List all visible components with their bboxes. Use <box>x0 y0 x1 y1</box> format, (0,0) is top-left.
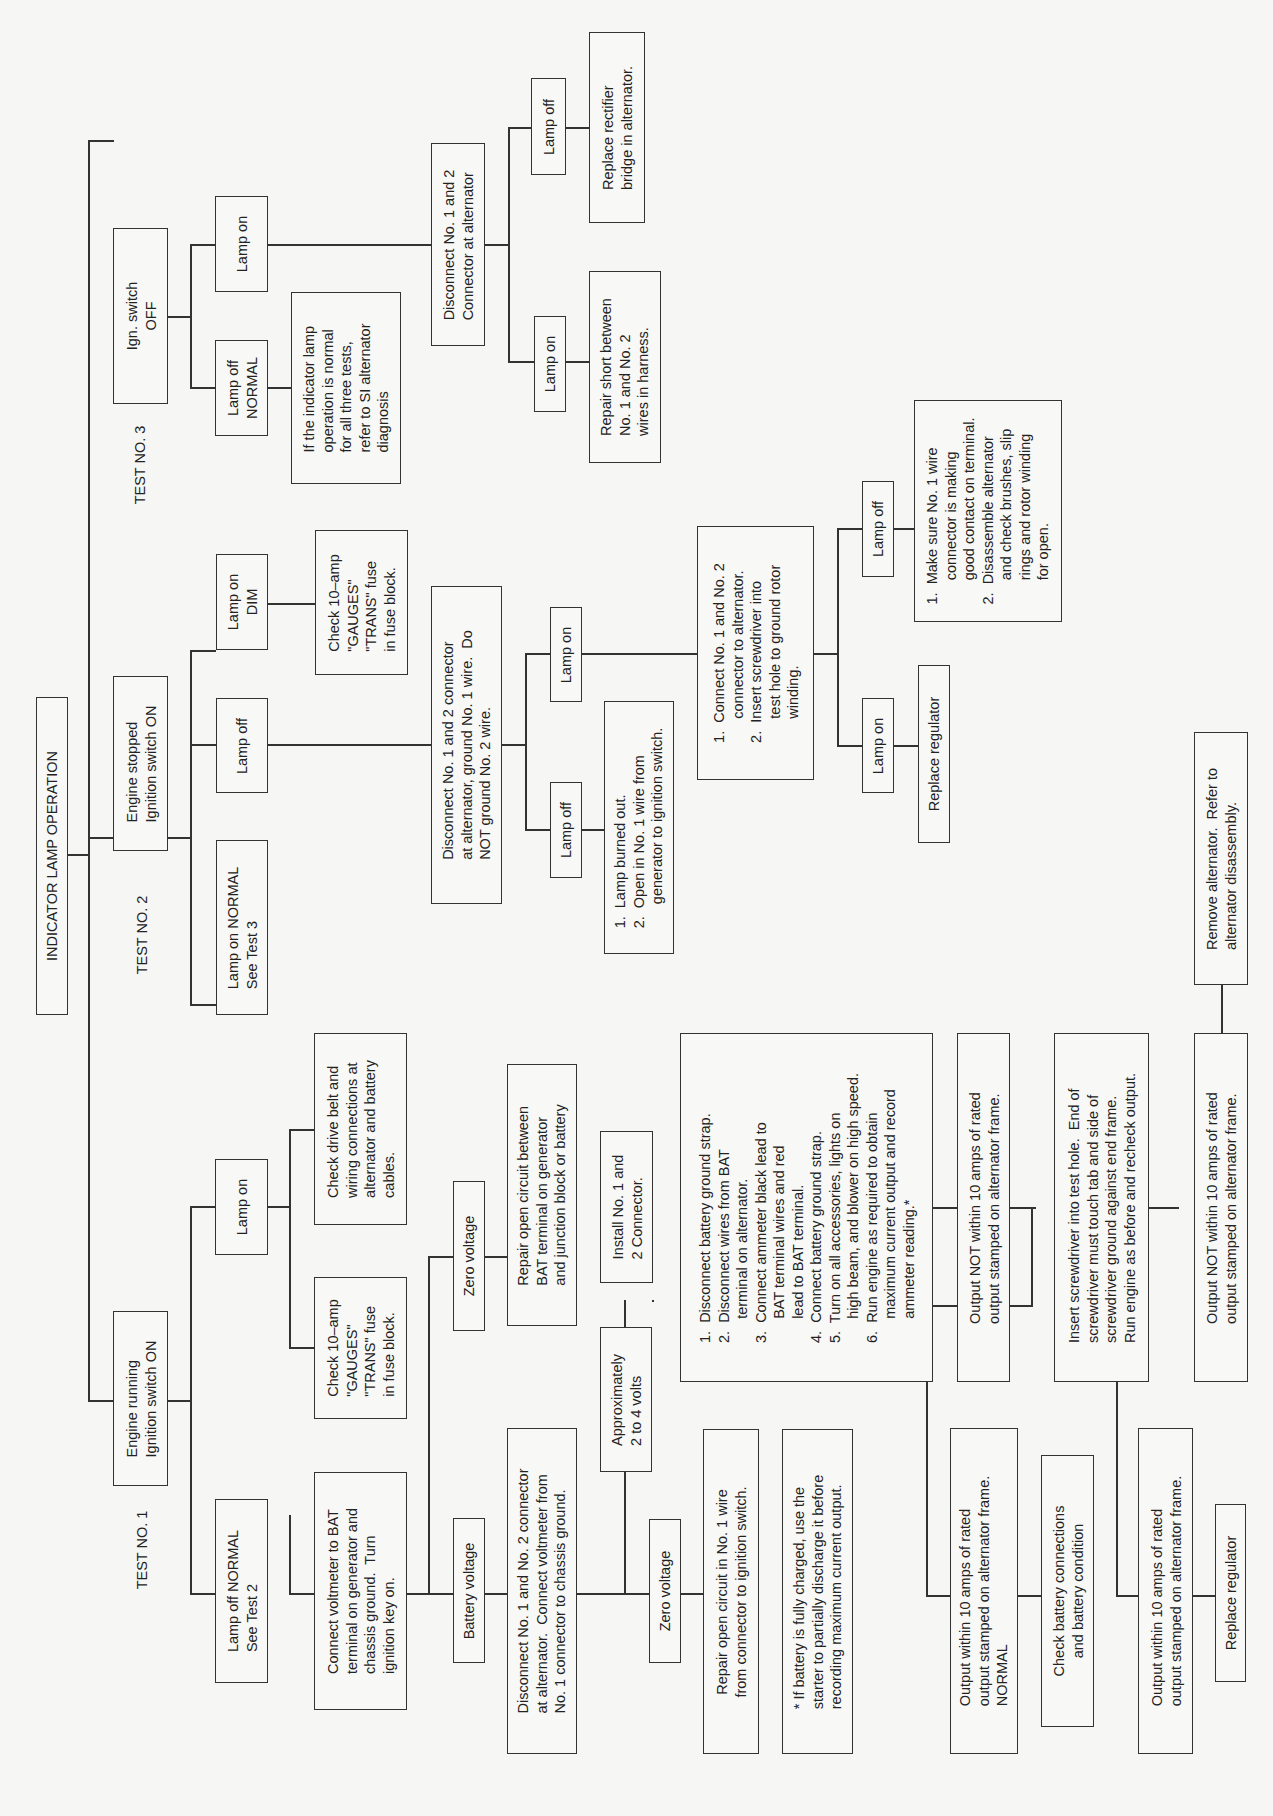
connector <box>508 127 510 363</box>
connector <box>428 1256 454 1258</box>
test-3-label: TEST NO. 3 <box>128 410 152 520</box>
title-text: INDICATOR LAMP OPERATION <box>43 751 62 961</box>
replace-regulator-2: Replace regulator <box>918 665 950 843</box>
test-1-check-drive-belt: Check drive belt and wiring connections … <box>314 1033 407 1225</box>
connector <box>190 744 216 746</box>
connector <box>289 1129 315 1131</box>
repair-bat-circuit: Repair open circuit between BAT terminal… <box>507 1064 577 1326</box>
test-2-disconnect-step: Disconnect No. 1 and 2 connector at alte… <box>431 586 502 904</box>
connector <box>190 244 216 246</box>
connect-screwdriver-step: 1. Connect No. 1 and No. 2 connector to … <box>697 526 814 780</box>
connector <box>624 1300 626 1302</box>
connector <box>1116 1595 1138 1597</box>
connector <box>67 854 89 856</box>
connector <box>624 1593 650 1595</box>
test-1-lamp-on: Lamp on <box>215 1159 268 1255</box>
test-2-lamp-off: Lamp off <box>216 698 268 793</box>
zero-voltage-result-1: Zero voltage <box>453 1181 485 1331</box>
connector <box>814 653 838 655</box>
connector <box>1149 1207 1179 1209</box>
connector <box>566 127 590 129</box>
connector <box>837 745 863 747</box>
replace-regulator-1: Replace regulator <box>1215 1504 1246 1682</box>
connector <box>88 1400 114 1402</box>
connector <box>289 1129 291 1349</box>
connector <box>190 387 216 389</box>
connector <box>190 1206 192 1402</box>
repair-short: Repair short between No. 1 and No. 2 wir… <box>589 271 661 463</box>
connector <box>190 1206 216 1208</box>
connector <box>268 244 436 246</box>
normal-all-tests-note: If the indicator lamp operation is norma… <box>291 292 401 484</box>
test-1-label: TEST NO. 1 <box>130 1495 154 1605</box>
test-2-condition: Engine stopped Ignition switch ON <box>113 676 168 851</box>
test-1-disconnect-step: Disconnect No. 1 and No. 2 connector at … <box>507 1428 577 1754</box>
connector <box>508 361 534 363</box>
output-not-within-1: Output NOT within 10 amps of rated outpu… <box>957 1033 1010 1382</box>
connector <box>485 1256 507 1258</box>
zero-voltage-result-2: Zero voltage <box>649 1519 681 1663</box>
connector <box>428 1256 430 1595</box>
connector <box>837 528 839 747</box>
approx-2-4-volts-result: Approximately 2 to 4 volts <box>600 1327 652 1472</box>
footnote-battery-charged: * If battery is fully charged, use the s… <box>782 1429 853 1754</box>
connector <box>167 1400 191 1402</box>
test-3-sub-lamp-on: Lamp on <box>534 316 566 412</box>
insert-screwdriver-step: Insert screwdriver into test hole. End o… <box>1054 1033 1149 1382</box>
connector <box>577 1593 625 1595</box>
connector <box>485 1593 507 1595</box>
ammeter-steps: 1. Disconnect battery ground strap. 2. D… <box>680 1033 933 1382</box>
connector <box>926 1595 950 1597</box>
connector <box>624 1472 626 1595</box>
final-lamp-off-actions: 1. Make sure No. 1 wire connector is mak… <box>914 400 1062 622</box>
connector <box>894 745 918 747</box>
output-not-within-2: Output NOT within 10 amps of rated outpu… <box>1194 1033 1248 1382</box>
test-3-lamp-off-normal: Lamp off NORMAL <box>215 340 268 436</box>
remove-alternator: Remove alternator. Refer to alternator d… <box>1194 732 1248 985</box>
test-1-check-fuse: Check 10–amp "GAUGES" "TRANS" fuse in fu… <box>314 1277 407 1419</box>
test-3-condition: Ign. switch OFF <box>113 228 168 404</box>
connector <box>190 1593 216 1595</box>
connector <box>582 653 702 655</box>
connector <box>933 1207 957 1209</box>
connector <box>1221 985 1223 1035</box>
connector <box>566 361 590 363</box>
connector <box>289 1515 291 1595</box>
connector <box>190 1400 192 1595</box>
connector <box>624 1300 626 1330</box>
connector <box>525 653 551 655</box>
connector <box>428 1593 454 1595</box>
test-2-final-lamp-off: Lamp off <box>862 481 894 577</box>
connector <box>837 528 863 530</box>
test-1-condition: Engine running Ignition switch ON <box>113 1311 168 1486</box>
connector <box>88 837 114 839</box>
test-2-sub-lamp-off: Lamp off <box>550 782 582 878</box>
test-3-lamp-on: Lamp on <box>215 196 268 292</box>
test-2-sub-lamp-on: Lamp on <box>550 607 582 702</box>
battery-voltage-result: Battery voltage <box>453 1518 485 1663</box>
test-2-final-lamp-on: Lamp on <box>862 698 894 793</box>
connector <box>407 1593 429 1595</box>
connector <box>289 1347 315 1349</box>
test-2-label: TEST NO. 2 <box>130 880 154 990</box>
connector <box>88 140 90 1402</box>
connector <box>190 650 192 1005</box>
connector <box>1031 1207 1033 1307</box>
connector <box>167 837 191 839</box>
replace-rectifier: Replace rectifier bridge in alternator. <box>589 32 645 223</box>
test-3-sub-lamp-off: Lamp off <box>531 78 566 175</box>
connector <box>190 244 192 389</box>
test-2-check-fuse: Check 10–amp "GAUGES" "TRANS" fuse in fu… <box>315 530 408 675</box>
connector <box>267 1206 291 1208</box>
test-2-lamp-on-dim: Lamp on DIM <box>216 554 268 650</box>
lamp-off-causes: 1. Lamp burned out. 2. Open in No. 1 wir… <box>604 701 674 954</box>
connector <box>1017 1595 1041 1597</box>
repair-no1-wire: Repair open circuit in No. 1 wire from c… <box>703 1429 759 1754</box>
connector <box>268 387 292 389</box>
test-3-disconnect-step: Disconnect No. 1 and 2 Connector at alte… <box>431 143 485 346</box>
connector <box>502 744 526 746</box>
test-2-lamp-on-normal: Lamp on NORMAL See Test 3 <box>216 840 268 1015</box>
connector <box>1193 1595 1215 1597</box>
check-battery-connections: Check battery connections and battery co… <box>1041 1455 1094 1727</box>
connector <box>268 603 316 605</box>
